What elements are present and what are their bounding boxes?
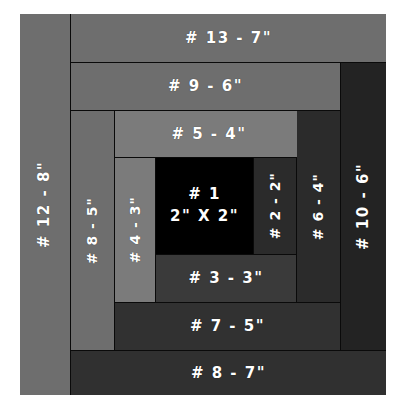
quilt-block-diagram: # 1 2" X 2"# 2 - 2"# 3 - 3"# 4 - 3"# 5 -… <box>20 14 386 395</box>
quilt-piece-5: # 5 - 4" <box>115 111 303 157</box>
quilt-piece-label: # 9 - 6" <box>168 77 243 96</box>
quilt-piece-13: # 13 - 7" <box>71 14 386 62</box>
quilt-piece-2: # 2 - 2" <box>254 158 296 254</box>
quilt-piece-9: # 9 - 6" <box>71 63 340 110</box>
quilt-piece-label: # 8 - 7" <box>191 364 266 383</box>
quilt-piece-10: # 10 - 6" <box>341 63 386 350</box>
quilt-piece-label: # 1 2" X 2" <box>170 184 239 228</box>
quilt-piece-12: # 12 - 8" <box>20 14 70 395</box>
quilt-piece-3: # 3 - 3" <box>156 255 296 302</box>
quilt-piece-label: # 4 - 3" <box>126 197 144 264</box>
quilt-piece-label: # 12 - 8" <box>36 161 55 248</box>
quilt-piece-label: # 2 - 2" <box>266 173 284 240</box>
quilt-piece-7: # 7 - 5" <box>115 303 340 350</box>
quilt-piece-6: # 6 - 4" <box>297 111 340 302</box>
quilt-piece-4: # 4 - 3" <box>115 158 155 302</box>
quilt-piece-label: # 13 - 7" <box>185 29 272 48</box>
quilt-piece-label: # 8 - 5" <box>84 197 102 264</box>
quilt-piece-1: # 1 2" X 2" <box>156 158 253 254</box>
quilt-piece-label: # 3 - 3" <box>188 269 263 288</box>
quilt-piece-label: # 7 - 5" <box>190 317 265 336</box>
quilt-piece-label: # 5 - 4" <box>171 125 246 144</box>
quilt-piece-8: # 8 - 7" <box>71 351 386 395</box>
quilt-piece-8: # 8 - 5" <box>71 111 114 350</box>
quilt-piece-label: # 10 - 6" <box>354 163 373 250</box>
quilt-piece-label: # 6 - 4" <box>310 173 328 240</box>
